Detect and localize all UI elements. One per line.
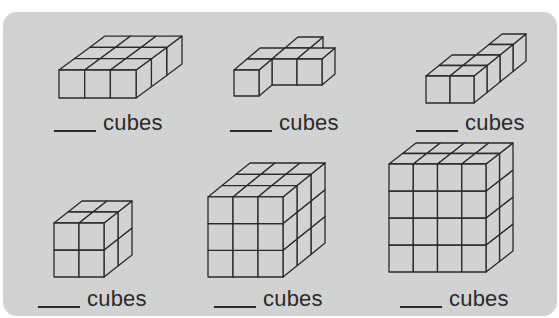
cube-front-face (413, 164, 437, 191)
cube-front-face (389, 218, 413, 245)
cubes-word: cubes (279, 112, 339, 134)
cube-front-face (233, 250, 258, 277)
cube-front-face (208, 224, 233, 251)
cube-front-face (438, 191, 462, 218)
cube-front-face (438, 164, 462, 191)
cubes-word: cubes (103, 112, 163, 134)
cube-front-face (233, 197, 258, 224)
cube-front-face (208, 197, 233, 224)
cube-front-face (389, 164, 413, 191)
cube-front-face (258, 197, 283, 224)
cubes-word: cubes (87, 288, 147, 310)
cube-front-face (426, 76, 450, 103)
answer-blank[interactable] (214, 306, 256, 308)
answer-blank[interactable] (38, 306, 80, 308)
cube-front-face (450, 76, 474, 103)
answer-label-6: cubes (400, 284, 509, 310)
cube-front-face (389, 191, 413, 218)
cube-front-face (234, 70, 259, 96)
cube-front-face (413, 218, 437, 245)
cube-front-face (208, 250, 233, 277)
cube-front-face (54, 223, 79, 250)
cube-front-face (54, 250, 79, 277)
cube-front-face (297, 59, 322, 85)
cube-front-face (389, 245, 413, 272)
cube-front-face (462, 164, 486, 191)
cube-figures (0, 0, 559, 318)
cube-front-face (79, 223, 104, 250)
answer-label-2: cubes (230, 108, 339, 134)
cube-front-face (85, 70, 111, 98)
cubes-word: cubes (465, 112, 525, 134)
cubes-word: cubes (263, 288, 323, 310)
cube-front-face (272, 59, 297, 85)
cube-front-face (59, 70, 85, 98)
answer-label-1: cubes (54, 108, 163, 134)
cube-front-face (462, 218, 486, 245)
answer-blank[interactable] (416, 130, 458, 132)
cube-front-face (438, 218, 462, 245)
cube-front-face (462, 191, 486, 218)
cubes-word: cubes (449, 288, 509, 310)
cube-front-face (462, 245, 486, 272)
answer-blank[interactable] (54, 130, 96, 132)
cube-front-face (438, 245, 462, 272)
cube-front-face (233, 224, 258, 251)
cube-front-face (79, 250, 104, 277)
cube-front-face (413, 191, 437, 218)
answer-label-3: cubes (416, 108, 525, 134)
cube-front-face (258, 224, 283, 251)
answer-blank[interactable] (230, 130, 272, 132)
answer-label-4: cubes (38, 284, 147, 310)
cube-front-face (413, 245, 437, 272)
answer-label-5: cubes (214, 284, 323, 310)
cube-front-face (110, 70, 136, 98)
cube-front-face (258, 250, 283, 277)
answer-blank[interactable] (400, 306, 442, 308)
